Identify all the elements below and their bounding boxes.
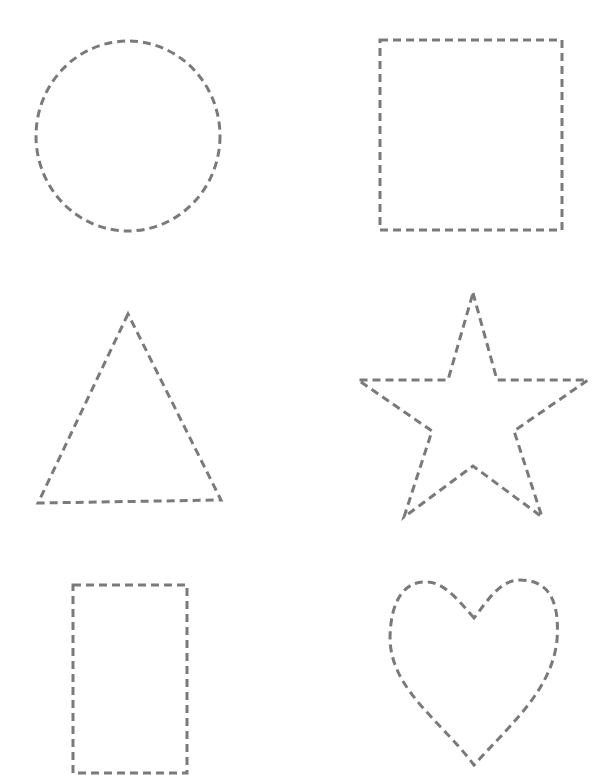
star-shape: [358, 293, 588, 517]
rectangle-shape: [73, 585, 187, 773]
heart-shape: [390, 580, 557, 765]
square-shape: [380, 40, 562, 230]
worksheet-canvas: [0, 0, 612, 775]
circle-shape: [36, 41, 220, 231]
triangle-shape: [38, 314, 221, 503]
